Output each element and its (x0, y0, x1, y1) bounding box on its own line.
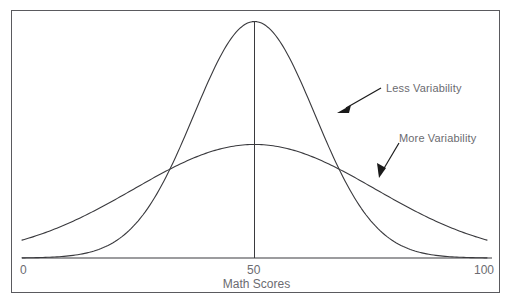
more-variability-arrow-head (377, 163, 386, 178)
annotation-less-variability: Less Variability (386, 82, 462, 94)
less-variability-arrow (337, 88, 381, 113)
less-variability-arrow-shaft (346, 88, 381, 108)
annotation-more-variability: More Variability (399, 132, 476, 144)
more-variability-arrow-shaft (383, 143, 399, 170)
x-tick-label-100: 100 (474, 263, 494, 277)
chart-plot-area (0, 0, 513, 304)
x-axis-title: Math Scores (0, 277, 513, 291)
distribution-chart-figure: Less Variability More Variability 0 50 1… (0, 0, 513, 304)
more-variability-arrow (377, 143, 399, 178)
x-tick-label-0: 0 (20, 263, 27, 277)
x-tick-label-50: 50 (247, 263, 260, 277)
